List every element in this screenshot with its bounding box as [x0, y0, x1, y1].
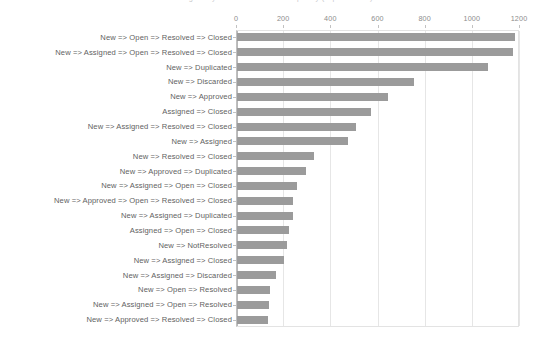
category-label: New => Assigned => Open => Closed [101, 181, 232, 190]
y-tick-mark [233, 290, 236, 291]
y-tick-mark [233, 216, 236, 217]
bar [237, 63, 488, 71]
bar [237, 316, 268, 324]
category-label: New => Approved => Resolved => Closed [86, 315, 232, 324]
y-tick-mark [233, 127, 236, 128]
y-tick-mark [233, 97, 236, 98]
y-tick-mark [233, 37, 236, 38]
x-tick-label: 0 [234, 14, 238, 23]
y-tick-mark [233, 260, 236, 261]
bar [237, 152, 314, 160]
bar [237, 212, 293, 220]
x-tick-mark [283, 25, 284, 28]
y-tick-mark [233, 171, 236, 172]
bar-rows: New => Open => Resolved => ClosedNew => … [0, 30, 552, 327]
bar [237, 256, 284, 264]
category-label: New => Assigned [171, 137, 232, 146]
bar [237, 197, 293, 205]
category-label: New => NotResolved [158, 241, 232, 250]
y-tick-mark [233, 245, 236, 246]
bar [237, 301, 269, 309]
x-tick-label: 400 [324, 14, 336, 23]
x-tick-label: 1000 [464, 14, 481, 23]
bar [237, 48, 513, 56]
bar [237, 33, 515, 41]
category-label: New => Approved => Duplicated [120, 167, 232, 176]
x-axis-tick-labels: 020040060080010001200 [0, 14, 552, 28]
x-tick-label: 600 [371, 14, 383, 23]
y-tick-mark [233, 82, 236, 83]
x-tick-mark [330, 25, 331, 28]
chart-title: Bug Lifecycle Transition Path Frequency … [179, 0, 372, 2]
y-tick-mark [233, 320, 236, 321]
y-tick-mark [233, 230, 236, 231]
bar [237, 226, 289, 234]
y-tick-mark [233, 112, 236, 113]
category-label: New => Assigned => Duplicated [121, 211, 232, 220]
category-label: New => Open => Resolved => Closed [100, 33, 232, 42]
category-label: New => Assigned => Open => Resolved => C… [55, 48, 232, 57]
bar [237, 108, 371, 116]
bar [237, 182, 297, 190]
y-tick-mark [233, 201, 236, 202]
x-tick-label: 1200 [511, 14, 528, 23]
bar-chart: Bug Lifecycle Transition Path Frequency … [0, 0, 552, 343]
bar [237, 93, 388, 101]
y-tick-mark [233, 141, 236, 142]
x-tick-mark [472, 25, 473, 28]
bar [237, 78, 414, 86]
category-label: Assigned => Closed [162, 107, 232, 116]
bar [237, 167, 306, 175]
bar [237, 241, 287, 249]
category-label: New => Assigned => Discarded [123, 271, 232, 280]
bar [237, 286, 270, 294]
y-tick-mark [233, 186, 236, 187]
bar [237, 123, 356, 131]
x-tick-mark [236, 25, 237, 28]
y-tick-mark [233, 305, 236, 306]
category-label: New => Approved [170, 92, 232, 101]
x-tick-label: 200 [277, 14, 289, 23]
bar [237, 137, 348, 145]
category-label: New => Approved => Open => Resolved => C… [54, 196, 232, 205]
x-tick-mark [519, 25, 520, 28]
x-tick-mark [378, 25, 379, 28]
category-label: New => Resolved => Closed [133, 152, 232, 161]
category-label: New => Duplicated [166, 63, 232, 72]
category-label: New => Assigned => Open => Resolved [93, 300, 232, 309]
y-tick-mark [233, 156, 236, 157]
category-label: New => Assigned => Closed [134, 256, 232, 265]
category-label: New => Discarded [168, 77, 232, 86]
x-tick-label: 800 [418, 14, 430, 23]
y-tick-mark [233, 275, 236, 276]
bar [237, 271, 276, 279]
chart-title-strip: Bug Lifecycle Transition Path Frequency … [0, 0, 552, 9]
category-label: New => Assigned => Resolved => Closed [88, 122, 232, 131]
y-tick-mark [233, 67, 236, 68]
category-label: New => Open => Resolved [138, 285, 232, 294]
x-tick-mark [425, 25, 426, 28]
category-label: Assigned => Open => Closed [130, 226, 232, 235]
y-tick-mark [233, 52, 236, 53]
